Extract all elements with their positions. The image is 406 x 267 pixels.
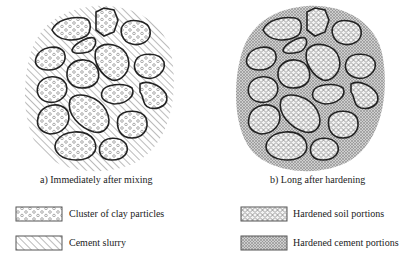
panel-a-mixing <box>25 6 174 171</box>
panel-b-hardened <box>236 6 385 171</box>
legend-label-clay: Cluster of clay particles <box>69 208 164 219</box>
legend-label-hardened-cement: Hardened cement portions <box>293 237 399 248</box>
caption-panel-a: a) Immediately after mixing <box>40 174 152 185</box>
legend-swatch-hardened-soil <box>241 207 287 221</box>
legend-label-hardened-soil: Hardened soil portions <box>293 208 384 219</box>
caption-panel-b: b) Long after hardening <box>270 174 365 185</box>
legend-label-slurry: Cement slurry <box>69 237 126 248</box>
legend-swatch-hardened-cement <box>241 236 287 250</box>
legend-swatch-clay <box>16 207 62 221</box>
legend-swatch-slurry <box>16 236 62 250</box>
diagram-canvas <box>0 0 406 267</box>
